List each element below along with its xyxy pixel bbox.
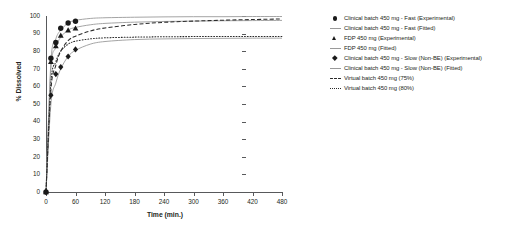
- y-tick-label: 10: [14, 171, 40, 177]
- data-point-marker: [48, 59, 54, 64]
- series-line: [46, 17, 282, 192]
- x-tick-label: 240: [149, 199, 179, 205]
- series-line: [46, 38, 282, 192]
- legend-key: [329, 63, 344, 73]
- y-tick-label: 100: [14, 13, 40, 19]
- y-tick-label: 50: [14, 101, 40, 107]
- legend-item[interactable]: Virtual batch 450 mg (75%): [329, 73, 529, 83]
- x-tick: [253, 192, 254, 196]
- y-tick-label: 80: [14, 48, 40, 54]
- y-tick: [242, 104, 246, 105]
- y-tick-label: 20: [14, 154, 40, 160]
- data-point-marker: [53, 71, 58, 77]
- data-point-marker: [48, 56, 53, 61]
- legend-solid-line-icon: [330, 48, 341, 49]
- legend-item[interactable]: Clinical batch 450 mg - Fast (Fitted): [329, 23, 529, 33]
- data-point-marker: [73, 19, 78, 24]
- dissolution-profile-chart: % Dissolved Time (min.) 0102030405060708…: [0, 0, 529, 240]
- legend-circle-marker-icon: [333, 16, 338, 21]
- data-point-marker: [48, 92, 53, 98]
- data-point-marker: [65, 27, 71, 32]
- y-tick: [242, 51, 246, 52]
- x-tick-label: 120: [90, 199, 120, 205]
- y-tick: [242, 86, 246, 87]
- y-tick-label: 70: [14, 66, 40, 72]
- series-line: [46, 36, 282, 192]
- data-point-marker: [58, 32, 64, 37]
- y-tick: [242, 69, 246, 70]
- y-tick: [242, 34, 246, 35]
- x-tick-label: 420: [238, 199, 268, 205]
- x-tick: [105, 192, 106, 196]
- data-point-marker: [66, 53, 71, 59]
- legend-key: [329, 83, 344, 93]
- y-tick: [242, 122, 246, 123]
- legend-triangle-marker-icon: [332, 36, 336, 40]
- data-point-marker: [73, 46, 78, 52]
- x-tick: [223, 192, 224, 196]
- legend-label: Virtual batch 450 mg (80%): [344, 85, 414, 91]
- x-tick: [282, 192, 283, 196]
- y-tick-label: 40: [14, 118, 40, 124]
- legend-label: Clinical batch 450 mg - Fast (Experiment…: [344, 15, 455, 21]
- y-tick: [242, 174, 246, 175]
- legend-solid-line-icon: [330, 68, 341, 69]
- legend-label: Clinical batch 450 mg - Fast (Fitted): [344, 25, 435, 31]
- legend-label: FDP 450 mg (Fitted): [344, 45, 396, 51]
- legend-label: FDP 450 mg (Experimental): [344, 35, 416, 41]
- data-point-marker: [53, 43, 59, 48]
- legend-item[interactable]: Clinical batch 450 mg - Slow (Non-BE) (F…: [329, 63, 529, 73]
- legend-dashed-line-icon: [330, 78, 341, 79]
- series-line: [46, 20, 282, 192]
- x-tick-label: 180: [120, 199, 150, 205]
- legend-label: Clinical batch 450 mg - Slow (Non-BE) (F…: [344, 65, 463, 71]
- legend-solid-line-icon: [330, 28, 341, 29]
- legend-dotted-line-icon: [330, 88, 341, 89]
- x-axis-title: Time (min.): [100, 211, 230, 218]
- y-axis-line: [46, 16, 47, 193]
- legend-key: [329, 43, 344, 53]
- y-tick-label: 30: [14, 136, 40, 142]
- legend-item[interactable]: FDP 450 mg (Experimental): [329, 33, 529, 43]
- legend-key: [329, 53, 344, 63]
- legend-item[interactable]: Virtual batch 450 mg (80%): [329, 83, 529, 93]
- data-point-marker: [73, 25, 79, 30]
- y-tick-label: 0: [14, 189, 40, 195]
- legend-key: [329, 23, 344, 33]
- legend-item[interactable]: Clinical batch 450 mg - Slow (Non-BE) (E…: [329, 53, 529, 63]
- legend-key: [329, 33, 344, 43]
- legend-label: Clinical batch 450 mg - Slow (Non-BE) (E…: [344, 55, 482, 61]
- series-line: [46, 19, 282, 192]
- legend-item[interactable]: Clinical batch 450 mg - Fast (Experiment…: [329, 13, 529, 23]
- x-tick-label: 360: [208, 199, 238, 205]
- x-tick: [76, 192, 77, 196]
- data-point-marker: [58, 64, 63, 70]
- legend-key: [329, 73, 344, 83]
- x-tick-label: 300: [179, 199, 209, 205]
- y-tick: [242, 192, 246, 193]
- x-tick: [135, 192, 136, 196]
- y-tick-label: 90: [14, 30, 40, 36]
- x-tick: [46, 192, 47, 196]
- data-point-marker: [58, 26, 63, 31]
- y-tick-label: 60: [14, 83, 40, 89]
- y-tick: [242, 157, 246, 158]
- data-point-marker: [53, 40, 58, 45]
- y-tick: [242, 139, 246, 140]
- x-tick-label: 480: [267, 199, 297, 205]
- chart-legend: Clinical batch 450 mg - Fast (Experiment…: [329, 13, 529, 93]
- x-tick-label: 0: [31, 199, 61, 205]
- y-tick: [242, 16, 246, 17]
- legend-label: Virtual batch 450 mg (75%): [344, 75, 414, 81]
- x-tick: [164, 192, 165, 196]
- legend-key: [329, 13, 344, 23]
- legend-item[interactable]: FDP 450 mg (Fitted): [329, 43, 529, 53]
- x-tick: [194, 192, 195, 196]
- data-point-marker: [65, 20, 70, 25]
- x-tick-label: 60: [61, 199, 91, 205]
- legend-diamond-marker-icon: [332, 55, 337, 60]
